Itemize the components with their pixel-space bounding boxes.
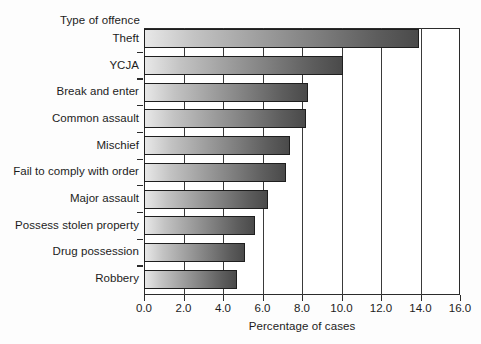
bar [144,243,245,262]
x-tick-label: 0.0 [136,302,152,314]
bar-fill [144,109,306,128]
bars-layer [144,28,460,295]
category-label: Drug possession [7,245,139,257]
x-tick-label: 2.0 [176,302,192,314]
bar [144,216,255,235]
bar [144,136,290,155]
bar-fill [144,243,245,262]
bar [144,270,237,289]
category-label: Fail to comply with order [7,165,139,177]
x-tick-label: 10.0 [330,302,352,314]
bar [144,109,306,128]
category-label: Robbery [7,272,139,284]
x-tick [342,295,343,301]
x-tick-label: 12.0 [370,302,392,314]
category-label: Theft [7,32,139,44]
category-label: Common assault [7,112,139,124]
category-tick [137,159,143,160]
bar-fill [144,83,308,102]
bar-fill [144,29,419,48]
x-tick-label: 14.0 [409,302,431,314]
x-tick [184,295,185,301]
bar-fill [144,136,290,155]
bar-fill [144,56,343,75]
category-tick [137,52,143,53]
category-tick [137,265,143,266]
category-label: Mischief [7,139,139,151]
x-tick [263,295,264,301]
bar-fill [144,270,237,289]
category-tick [137,78,143,79]
x-tick [302,295,303,301]
bar [144,83,308,102]
x-tick [381,295,382,301]
x-tick [144,295,145,301]
bar-fill [144,216,255,235]
category-tick [137,132,143,133]
category-axis-labels: TheftYCJABreak and enterCommon assaultMi… [0,28,139,295]
x-tick [460,295,461,301]
bar [144,56,343,75]
category-tick [137,212,143,213]
bar-fill [144,163,286,182]
x-tick-label: 16.0 [449,302,471,314]
x-tick [223,295,224,301]
category-label: Major assault [7,192,139,204]
category-label: YCJA [7,59,139,71]
category-tick [137,185,143,186]
bar-fill [144,190,268,209]
bar [144,163,286,182]
y-axis-title: Type of offence [60,14,140,26]
x-tick-label: 6.0 [255,302,271,314]
category-tick [137,239,143,240]
x-tick-label: 8.0 [294,302,310,314]
bar [144,190,268,209]
bar-chart-figure: Type of offence TheftYCJABreak and enter… [0,0,481,344]
x-tick [421,295,422,301]
x-tick-label: 4.0 [215,302,231,314]
category-label: Break and enter [7,85,139,97]
bar [144,29,419,48]
x-axis-title: Percentage of cases [144,320,460,332]
category-tick [137,105,143,106]
category-label: Possess stolen property [7,219,139,231]
